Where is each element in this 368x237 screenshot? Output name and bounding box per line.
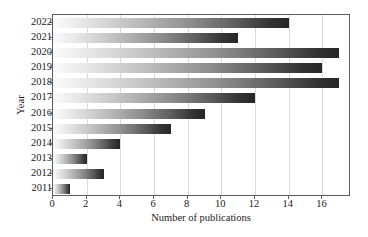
x-tick-label-4: 4 bbox=[107, 198, 131, 210]
y-tick-mark bbox=[49, 143, 52, 144]
bar-2011 bbox=[53, 184, 70, 194]
x-tick-mark bbox=[86, 196, 87, 199]
x-tick-mark bbox=[153, 196, 154, 199]
x-tick-label-8: 8 bbox=[175, 198, 199, 210]
y-tick-mark bbox=[49, 82, 52, 83]
y-tick-mark bbox=[49, 173, 52, 174]
y-tick-label-2018: 2018 bbox=[6, 77, 52, 87]
x-axis-label: Number of publications bbox=[52, 212, 350, 223]
x-tick-mark bbox=[220, 196, 221, 199]
bar-2014 bbox=[53, 139, 120, 149]
bar-2020 bbox=[53, 48, 339, 58]
bar-2015 bbox=[53, 124, 171, 134]
y-tick-mark bbox=[49, 22, 52, 23]
x-tick-mark bbox=[288, 196, 289, 199]
y-tick-label-2011: 2011 bbox=[6, 183, 52, 193]
x-tick-mark bbox=[321, 196, 322, 199]
y-tick-label-2021: 2021 bbox=[6, 32, 52, 42]
x-tick-mark bbox=[119, 196, 120, 199]
bar-2021 bbox=[53, 33, 238, 43]
x-tick-label-6: 6 bbox=[141, 198, 165, 210]
y-tick-mark bbox=[49, 188, 52, 189]
y-tick-label-2022: 2022 bbox=[6, 17, 52, 27]
x-tick-label-0: 0 bbox=[40, 198, 64, 210]
bar-2012 bbox=[53, 169, 104, 179]
gridline bbox=[255, 15, 256, 195]
y-tick-mark bbox=[49, 67, 52, 68]
y-tick-mark bbox=[49, 113, 52, 114]
x-tick-label-10: 10 bbox=[208, 198, 232, 210]
x-tick-label-14: 14 bbox=[276, 198, 300, 210]
x-tick-label-2: 2 bbox=[74, 198, 98, 210]
y-tick-label-2012: 2012 bbox=[6, 168, 52, 178]
bar-2019 bbox=[53, 63, 322, 73]
x-tick-mark bbox=[254, 196, 255, 199]
bar-chart-figure: Year Number of publications 202220212020… bbox=[0, 0, 368, 237]
bar-2017 bbox=[53, 93, 255, 103]
plot-area bbox=[52, 14, 350, 196]
bar-2016 bbox=[53, 109, 205, 119]
x-tick-mark bbox=[52, 196, 53, 199]
y-tick-label-2013: 2013 bbox=[6, 153, 52, 163]
y-tick-label-2015: 2015 bbox=[6, 123, 52, 133]
y-tick-mark bbox=[49, 37, 52, 38]
x-tick-label-16: 16 bbox=[309, 198, 333, 210]
bar-2013 bbox=[53, 154, 87, 164]
y-tick-mark bbox=[49, 52, 52, 53]
y-tick-mark bbox=[49, 97, 52, 98]
y-tick-label-2016: 2016 bbox=[6, 108, 52, 118]
y-tick-label-2014: 2014 bbox=[6, 138, 52, 148]
bar-2022 bbox=[53, 18, 289, 28]
x-tick-mark bbox=[187, 196, 188, 199]
y-tick-mark bbox=[49, 158, 52, 159]
gridline bbox=[322, 15, 323, 195]
y-tick-mark bbox=[49, 128, 52, 129]
bar-2018 bbox=[53, 78, 339, 88]
y-tick-label-2017: 2017 bbox=[6, 92, 52, 102]
y-tick-label-2020: 2020 bbox=[6, 47, 52, 57]
gridline bbox=[289, 15, 290, 195]
y-tick-label-2019: 2019 bbox=[6, 62, 52, 72]
x-tick-label-12: 12 bbox=[242, 198, 266, 210]
